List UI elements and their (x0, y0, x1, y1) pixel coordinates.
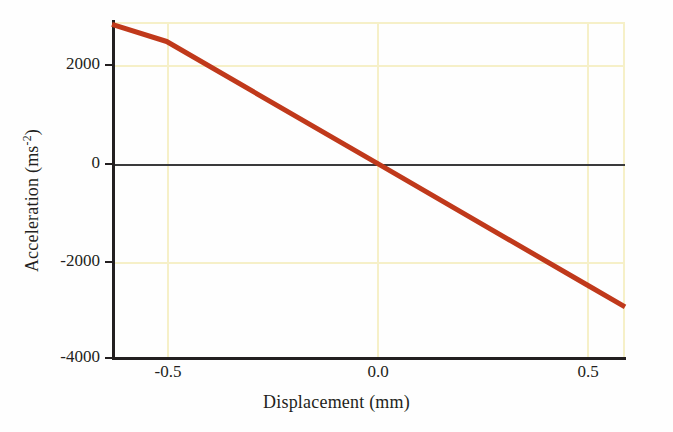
gridline-plot-right-edge (623, 22, 625, 358)
chart-figure: 2000 0 -2000 -4000 -0.5 0.0 0.5 Displace… (0, 0, 673, 432)
gridline-vertical-x-0.5 (587, 22, 589, 358)
y-tick-mark--2000 (105, 261, 113, 263)
y-axis-title: Acceleration (ms-2) (22, 51, 43, 351)
plot-area (112, 22, 625, 358)
x-tick-label-0.0: 0.0 (367, 363, 388, 380)
y-tick-label--2000: -2000 (60, 252, 100, 269)
gridline-horizontal-y--2000 (112, 262, 625, 264)
y-tick-mark-0 (105, 163, 113, 165)
gridline-vertical-x-0.0 (377, 22, 379, 358)
x-axis-spine (112, 357, 626, 360)
y-axis-spine (112, 20, 115, 360)
y-tick-label-2000: 2000 (66, 55, 100, 72)
x-tick-label-0.5: 0.5 (577, 363, 598, 380)
y-axis-title-exponent: -2 (20, 135, 34, 145)
gridline-horizontal-y-2900 (112, 22, 625, 24)
gridline-horizontal-y-2000 (112, 65, 625, 67)
gridline-vertical-x--0.5 (167, 22, 169, 358)
x-tick-label--0.5: -0.5 (155, 363, 182, 380)
y-axis-title-base: Acceleration (ms (22, 145, 42, 272)
y-tick-mark--4000 (105, 357, 113, 359)
y-tick-mark-2000 (105, 64, 113, 66)
x-axis-title: Displacement (mm) (0, 392, 673, 413)
y-axis-title-close: ) (22, 129, 42, 135)
zero-reference-line (112, 164, 625, 166)
y-tick-label-0: 0 (92, 154, 101, 171)
y-tick-label--4000: -4000 (60, 348, 100, 365)
